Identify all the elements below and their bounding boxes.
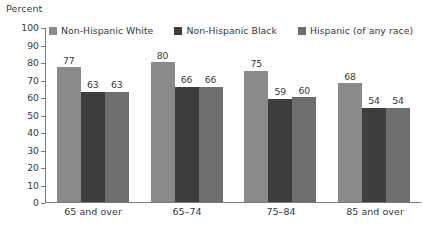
y-tick-mark <box>41 81 45 82</box>
bar-group: 806666 <box>140 28 234 202</box>
bar-slot: 75 <box>244 28 268 202</box>
bar-value-label: 54 <box>392 96 404 105</box>
y-tick-label: 70 <box>27 76 39 85</box>
bar: 80 <box>151 62 175 202</box>
y-tick-label: 50 <box>27 111 39 120</box>
bar: 66 <box>175 87 199 203</box>
bar-slot: 77 <box>57 28 81 202</box>
y-tick-label: 0 <box>33 198 39 207</box>
y-tick-label: 20 <box>27 163 39 172</box>
bar-value-label: 80 <box>157 51 169 60</box>
x-category-label: 65–74 <box>140 206 234 217</box>
bar-slot: 68 <box>338 28 362 202</box>
y-tick-label: 90 <box>27 41 39 50</box>
y-tick-label: 100 <box>21 23 39 32</box>
y-tick-mark <box>41 151 45 152</box>
y-tick-mark <box>41 168 45 169</box>
bar: 54 <box>362 108 386 203</box>
bar: 60 <box>292 97 316 202</box>
bar: 77 <box>57 67 81 202</box>
y-axis-title: Percent <box>6 3 42 14</box>
bar-value-label: 63 <box>87 80 99 89</box>
bar-group: 685454 <box>327 28 421 202</box>
bar: 75 <box>244 71 268 202</box>
y-tick-mark <box>41 63 45 64</box>
x-category-label: 85 and over <box>328 206 422 217</box>
bar-chart: Percent Non-Hispanic White Non-Hispanic … <box>0 0 423 239</box>
bar-group: 755960 <box>234 28 328 202</box>
y-tick-mark <box>41 98 45 99</box>
x-axis-line <box>45 202 421 203</box>
bar-slot: 59 <box>268 28 292 202</box>
bar-value-label: 54 <box>368 96 380 105</box>
bar-value-label: 59 <box>274 87 286 96</box>
x-axis-category-labels: 65 and over65–7475–8485 and over <box>46 206 422 217</box>
bar: 63 <box>105 92 129 202</box>
bar-slot: 54 <box>386 28 410 202</box>
bar-value-label: 68 <box>344 72 356 81</box>
bar: 59 <box>268 99 292 202</box>
y-tick-label: 40 <box>27 128 39 137</box>
bar: 68 <box>338 83 362 202</box>
bar: 54 <box>386 108 410 203</box>
bar-slot: 80 <box>151 28 175 202</box>
bar-group: 776363 <box>46 28 140 202</box>
y-tick-mark <box>41 186 45 187</box>
bar-slot: 63 <box>105 28 129 202</box>
bar-value-label: 75 <box>250 59 262 68</box>
bar-slot: 54 <box>362 28 386 202</box>
bar-slot: 66 <box>175 28 199 202</box>
y-tick-mark <box>41 46 45 47</box>
y-tick-mark <box>41 116 45 117</box>
bar-groups: 776363806666755960685454 <box>46 28 421 202</box>
bar-value-label: 66 <box>181 75 193 84</box>
y-tick-label: 10 <box>27 181 39 190</box>
x-category-label: 75–84 <box>234 206 328 217</box>
bar-value-label: 77 <box>63 56 75 65</box>
y-tick-mark <box>41 133 45 134</box>
y-tick-mark <box>41 28 45 29</box>
bar-value-label: 60 <box>298 86 310 95</box>
y-tick-label: 80 <box>27 58 39 67</box>
plot-area: 1009080706050403020100 77636380666675596… <box>45 28 421 203</box>
bar-slot: 63 <box>81 28 105 202</box>
y-tick-label: 30 <box>27 146 39 155</box>
bar-value-label: 66 <box>205 75 217 84</box>
bar-value-label: 63 <box>111 80 123 89</box>
bar-slot: 60 <box>292 28 316 202</box>
bar: 66 <box>199 87 223 203</box>
y-tick-label: 60 <box>27 93 39 102</box>
y-tick-mark <box>41 203 45 204</box>
bar-slot: 66 <box>199 28 223 202</box>
bar: 63 <box>81 92 105 202</box>
x-category-label: 65 and over <box>46 206 140 217</box>
